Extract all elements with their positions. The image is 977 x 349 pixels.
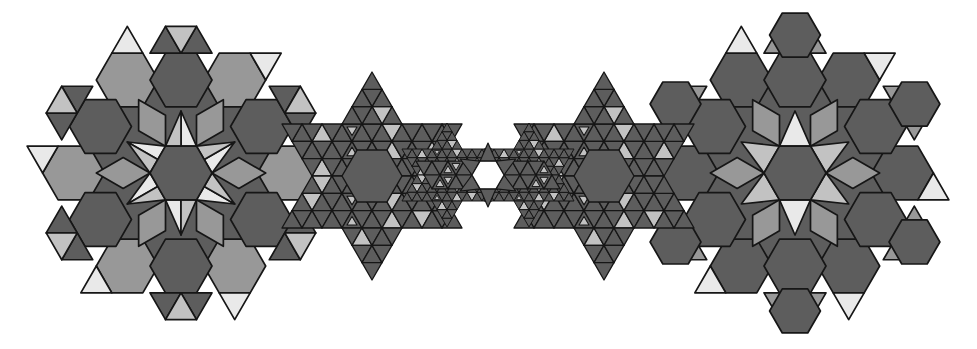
rim-triangle	[833, 293, 864, 320]
point-triangle	[594, 72, 614, 89]
rim-triangle	[726, 26, 757, 53]
rim-triangle	[112, 26, 143, 53]
point-triangle	[594, 263, 614, 280]
point-triangle	[362, 263, 382, 280]
rim-triangle	[219, 293, 250, 320]
point-triangle	[362, 72, 382, 89]
hexagonal-tiling-figure	[0, 0, 977, 349]
figure-canvas	[0, 0, 977, 349]
